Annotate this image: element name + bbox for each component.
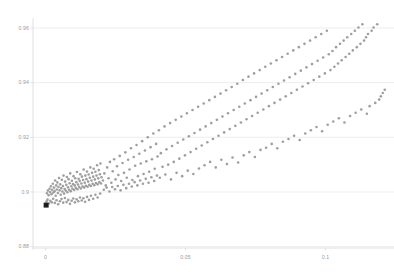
scatter-point xyxy=(125,176,128,179)
scatter-point xyxy=(66,176,69,179)
scatter-point xyxy=(130,185,133,188)
scatter-point xyxy=(77,200,80,203)
scatter-point xyxy=(240,121,243,124)
scatter-point xyxy=(67,199,70,202)
scatter-point xyxy=(186,112,189,115)
scatter-point xyxy=(264,66,267,69)
scatter-point xyxy=(288,76,291,79)
scatter-point xyxy=(111,170,114,173)
scatter-point xyxy=(287,138,290,141)
scatter-point xyxy=(231,156,234,159)
scatter-point xyxy=(314,36,317,39)
scatter-point xyxy=(258,69,261,72)
scatter-point xyxy=(58,189,61,192)
scatter-point xyxy=(72,197,75,200)
scatter-point xyxy=(265,146,268,149)
scatter-point xyxy=(81,175,84,178)
scatter-point xyxy=(46,198,49,201)
scatter-point xyxy=(251,115,254,118)
scatter-point xyxy=(76,188,79,191)
scatter-point xyxy=(315,126,318,129)
scatter-point xyxy=(292,49,295,52)
scatter-point xyxy=(234,125,237,128)
scatter-point xyxy=(70,185,73,188)
scatter-point xyxy=(160,152,163,155)
scatter-point xyxy=(354,29,357,32)
scatter-point xyxy=(94,170,97,173)
scatter-point xyxy=(153,180,156,183)
scatter-point xyxy=(59,193,62,196)
scatter-point xyxy=(117,174,120,177)
scatter-point xyxy=(131,179,134,182)
scatter-point xyxy=(282,140,285,143)
scatter-point xyxy=(206,141,209,144)
scatter-point xyxy=(178,157,181,160)
scatter-point xyxy=(93,184,96,187)
scatter-point xyxy=(111,186,114,189)
scatter-point xyxy=(273,102,276,105)
scatter-point xyxy=(191,109,194,112)
scatter-point xyxy=(260,92,263,95)
y-tick-label: 0.96 xyxy=(19,25,30,31)
scatter-point xyxy=(114,188,117,191)
scatter-point xyxy=(141,140,144,143)
scatter-point xyxy=(361,23,364,26)
scatter-point xyxy=(188,135,191,138)
scatter-point xyxy=(121,162,124,165)
scatter-point xyxy=(284,95,287,98)
scatter-point xyxy=(99,173,102,176)
scatter-point xyxy=(281,56,284,59)
scatter-point xyxy=(230,86,233,89)
scatter-point xyxy=(138,152,141,155)
scatter-point xyxy=(164,173,167,176)
scatter-point xyxy=(363,39,366,42)
scatter-point xyxy=(244,102,247,105)
scatter-point xyxy=(186,169,189,172)
scatter-point xyxy=(114,178,117,181)
scatter-point xyxy=(309,39,312,42)
scatter-point xyxy=(95,174,98,177)
scatter-point xyxy=(156,155,159,158)
scatter-point xyxy=(318,75,321,78)
scatter-point xyxy=(327,53,330,56)
scatter-point xyxy=(130,147,133,150)
scatter-point xyxy=(120,180,123,183)
scatter-point xyxy=(92,167,95,170)
scatter-point xyxy=(382,92,385,95)
scatter-point xyxy=(53,186,56,189)
scatter-point xyxy=(324,72,327,75)
scatter-point xyxy=(80,199,83,202)
scatter-point xyxy=(253,72,256,75)
scatter-point xyxy=(88,199,91,202)
scatter-point xyxy=(71,179,74,182)
scatter-point xyxy=(89,166,92,169)
scatter-point xyxy=(134,164,137,167)
scatter-point xyxy=(266,89,269,92)
scatter-point xyxy=(73,189,76,192)
scatter-point xyxy=(68,182,71,185)
scatter-point xyxy=(152,132,155,135)
scatter-point xyxy=(103,188,106,191)
scatter-point xyxy=(333,66,336,69)
scatter-point xyxy=(209,161,212,164)
x-tick-label: 0 xyxy=(32,254,60,260)
scatter-point xyxy=(270,62,273,65)
scatter-point xyxy=(301,85,304,88)
scatter-point xyxy=(116,185,119,188)
scatter-point xyxy=(50,185,53,188)
scatter-point xyxy=(67,178,70,181)
scatter-point xyxy=(118,155,121,158)
scatter-point xyxy=(195,148,198,151)
scatter-point xyxy=(335,46,338,49)
scatter-point xyxy=(259,149,262,152)
scatter-point xyxy=(167,163,170,166)
scatter-point xyxy=(48,187,51,190)
scatter-point xyxy=(175,172,178,175)
scatter-point xyxy=(52,198,55,201)
scatter-point xyxy=(237,161,240,164)
y-tick-label: 0.92 xyxy=(19,134,30,140)
scatter-point xyxy=(103,172,106,175)
scatter-point xyxy=(57,203,60,206)
scatter-point xyxy=(310,129,313,132)
scatter-point xyxy=(74,177,77,180)
